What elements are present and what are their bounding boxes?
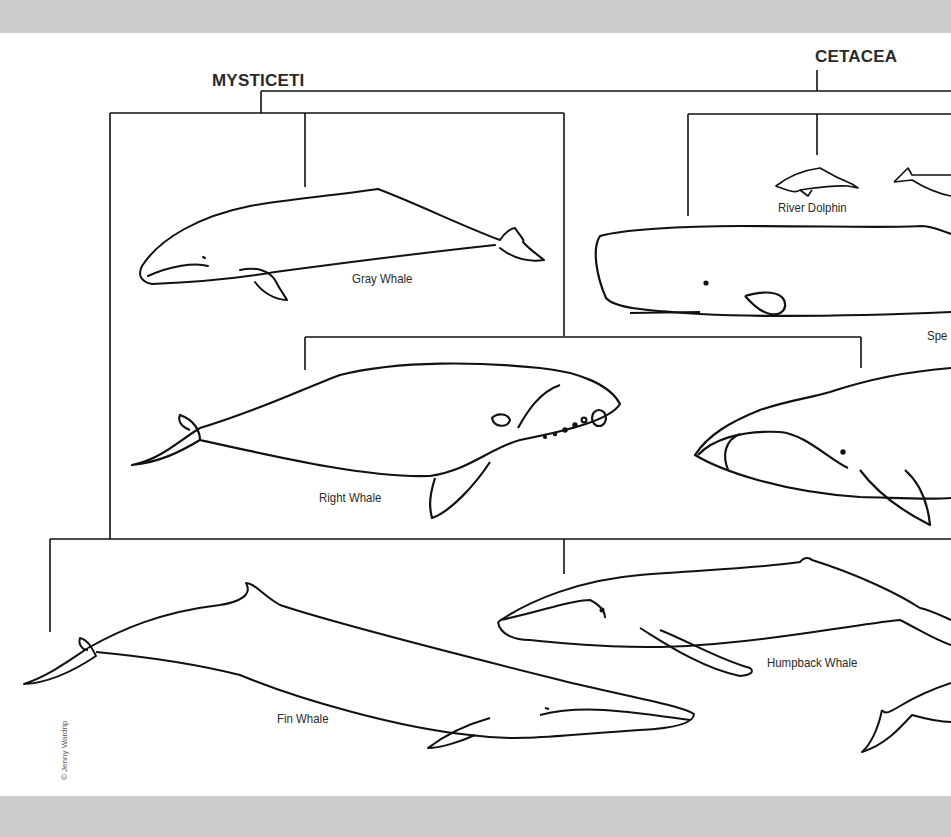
river-dolphin-illustration xyxy=(776,168,858,196)
species-label-river-dolphin: River Dolphin xyxy=(778,200,847,215)
species-label-gray-whale: Gray Whale xyxy=(352,271,412,286)
illustrator-credit: © Jenny Wardrip xyxy=(60,721,69,780)
fin-whale-illustration xyxy=(24,583,694,748)
suborder-label-mysticeti: MYSTICETI xyxy=(212,71,304,91)
bowhead-whale-illustration xyxy=(695,368,951,525)
species-label-fin-whale: Fin Whale xyxy=(277,711,329,726)
gray-whale-illustration xyxy=(140,189,544,300)
cutoff-fluke-illustration xyxy=(862,683,951,752)
root-label-cetacea: CETACEA xyxy=(815,47,897,67)
sperm-whale-illustration xyxy=(596,226,951,316)
species-label-right-whale: Right Whale xyxy=(319,490,381,505)
cetacea-phylogeny-drawing xyxy=(0,0,951,837)
tree-lines xyxy=(50,70,951,632)
humpback-whale-illustration xyxy=(498,558,951,676)
species-label-sperm-whale: Spe xyxy=(927,328,947,343)
species-label-humpback-whale: Humpback Whale xyxy=(767,655,857,670)
second-dolphin-illustration xyxy=(894,168,951,196)
